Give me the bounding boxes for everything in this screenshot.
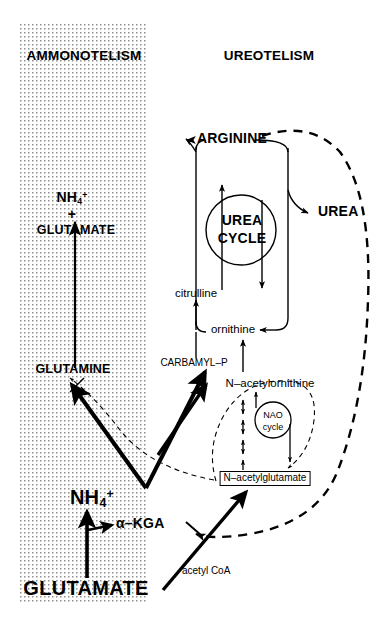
nao-cycle-circle	[255, 402, 291, 438]
label-citrulline: citrulline	[175, 288, 217, 300]
label-n-acetylornithine: N–acetylornithine	[226, 378, 315, 390]
label-arginine: ARGININE	[197, 131, 267, 145]
label-alpha-kga: α–KGA	[116, 516, 165, 530]
pathway-graphics	[0, 0, 391, 618]
label-ammonium-lower: NH4+	[70, 487, 114, 510]
ammonium-lower-subscript: 4	[99, 496, 106, 510]
ammonium-superscript: +	[82, 190, 87, 200]
label-nao-line2: cycle	[263, 423, 284, 432]
heading-ureotelism: UREOTELISM	[224, 49, 315, 63]
arrow-into-arginine	[186, 139, 196, 152]
inhibition-mark-acetylcoa	[186, 522, 202, 536]
label-carbamyl-p: CARBAMYL–P	[160, 358, 227, 368]
label-plus-sign: +	[68, 207, 76, 221]
label-glutamate-upper: GLUTAMATE	[37, 224, 115, 237]
label-glutamine: GLUTAMINE	[35, 363, 110, 376]
label-nao-line1: NAO	[263, 411, 283, 420]
bold-arrow-nacetylglutamate-activation	[158, 385, 206, 455]
ammonium-lower-superscript: +	[107, 487, 115, 501]
ammonium-lower-text: NH	[70, 486, 100, 508]
ammonium-text: NH	[57, 189, 78, 205]
figure-canvas: AMMONOTELISM UREOTELISM NH4+ + GLUTAMATE…	[0, 0, 391, 618]
urea-cycle-bottom-left	[196, 322, 206, 332]
label-urea-cycle-line1: UREA	[222, 213, 262, 227]
label-urea-cycle-line2: CYCLE	[218, 231, 266, 245]
label-urea: UREA	[318, 204, 358, 218]
heading-ammonotelism: AMMONOTELISM	[27, 49, 142, 63]
label-ornithine: ornithine	[211, 324, 255, 336]
label-acetyl-coa: acetyl CoA	[182, 566, 230, 576]
urea-cycle-loop-right	[276, 148, 288, 330]
label-ammonium-upper: NH4+	[57, 190, 88, 206]
label-n-acetylglutamate: N–acetylglutamate	[220, 471, 311, 486]
label-glutamate-lower: GLUTAMATE	[23, 578, 148, 598]
arrow-to-urea	[288, 190, 308, 213]
